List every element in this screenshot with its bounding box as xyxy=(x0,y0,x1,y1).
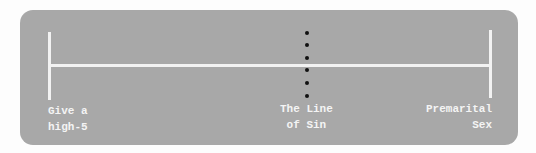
line-of-sin-dot xyxy=(305,56,309,60)
line-of-sin-dot xyxy=(305,68,309,72)
right-endpoint-tick xyxy=(489,30,492,98)
line-of-sin-dot xyxy=(305,81,309,85)
line-of-sin-dot xyxy=(305,94,309,98)
line-of-sin-dot xyxy=(305,31,309,35)
line-of-sin-dot xyxy=(305,43,309,47)
right-label: Premarital Sex xyxy=(426,101,492,133)
middle-label: The Line of Sin xyxy=(280,101,333,133)
left-label: Give a high-5 xyxy=(48,103,88,135)
spectrum-line xyxy=(50,64,491,67)
